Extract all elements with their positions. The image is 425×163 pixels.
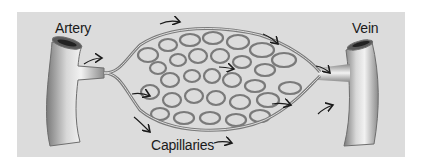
arrow-icon [214, 142, 232, 144]
capillary-network [104, 28, 320, 130]
vein-label: Vein [352, 20, 378, 36]
arrow-icon [160, 21, 180, 24]
arrow-icon [84, 58, 102, 64]
arrow-icon [318, 105, 333, 114]
arrow-icon [134, 117, 150, 132]
capillaries-label: Capillaries [151, 137, 214, 153]
arrow-icon [219, 67, 234, 69]
artery-label: Artery [55, 20, 91, 36]
vein [318, 38, 378, 146]
artery [47, 34, 104, 146]
